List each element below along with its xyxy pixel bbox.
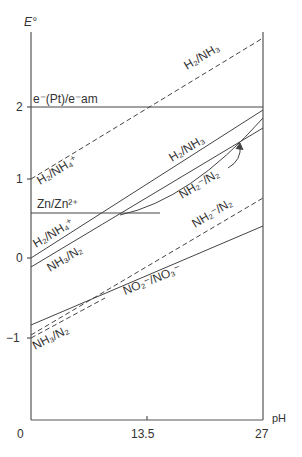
- x-tick-label-0: 0: [17, 427, 24, 441]
- label-h2-nh3-top: H₂/NH₃: [181, 40, 222, 72]
- x-tick-label-13.5: 13.5: [131, 427, 155, 441]
- x-axis-label: pH: [272, 412, 286, 424]
- y-tick-label-m1: −1: [6, 331, 20, 345]
- label-e-pt: e⁻(Pt)/e⁻am: [33, 92, 98, 106]
- label-zn: Zn/Zn²⁺: [37, 197, 78, 211]
- label-h2-nh3-mid: H₂/NH₃: [166, 132, 207, 164]
- label-nh2-n2-dashed: NH₂⁻/N₂: [189, 195, 235, 230]
- label-nh2-n2-curve: NH₂⁻/N₂: [176, 166, 222, 201]
- series-lines: [31, 38, 263, 338]
- label-nh3-n2-low: NH₃/N₂: [30, 322, 71, 352]
- y-tick-label-1: 1: [16, 172, 23, 186]
- label-no2-no3: NO₂⁻/NO₃⁻: [121, 262, 183, 298]
- potential-ph-diagram: E° pH 2 1 0 −1 0 13.5 27 e⁻(Pt)/e⁻am H₂/…: [0, 0, 302, 457]
- label-h2-nh4-mid: H₂/NH₄⁺: [30, 215, 76, 250]
- label-h2-nh4-top: H₂/NH₄⁺: [34, 152, 80, 187]
- y-axis-label: E°: [24, 15, 37, 29]
- y-tick-label-0: 0: [16, 251, 23, 265]
- line-h2-nh4-solid: [31, 110, 263, 258]
- x-tick-label-27: 27: [255, 427, 269, 441]
- y-tick-label-2: 2: [16, 100, 23, 114]
